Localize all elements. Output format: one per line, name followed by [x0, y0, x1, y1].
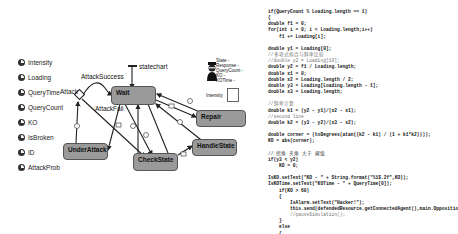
legend-text: State - Response - QueryCount - KO - KOT… [216, 58, 243, 83]
transition-attack-success[interactable]: AttackSuccess [81, 73, 124, 80]
state-check-state[interactable]: CheckState [133, 153, 178, 171]
state-under-attack[interactable]: UnderAttack [63, 143, 108, 160]
statechart-entry-label: statechart [139, 63, 168, 70]
statechart-diagram: Intensity Loading QueryTime QueryCount K… [0, 0, 250, 234]
code-line: { [268, 231, 458, 234]
state-repair[interactable]: Repair [196, 110, 246, 127]
legend-line-kotime: KOTime - [216, 78, 243, 83]
state-wait[interactable]: Wait [111, 86, 156, 105]
intensity-input-box[interactable] [227, 88, 239, 102]
code-panel: if(QueryCount % Loading.length == 1){dou… [268, 9, 458, 234]
transition-attack-fail[interactable]: AttackFail [95, 105, 124, 112]
branch-label: Attack [60, 88, 78, 95]
intensity-label: Intensity [206, 93, 223, 98]
state-handle-state[interactable]: HandleState [192, 139, 237, 156]
agent-legend: State - Response - QueryCount - KO - KOT… [202, 58, 250, 106]
